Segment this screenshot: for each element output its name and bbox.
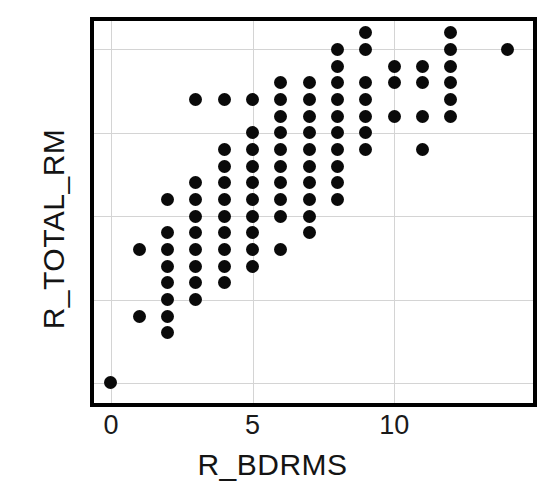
data-point (246, 193, 259, 206)
data-point (359, 126, 372, 139)
y-axis-title: R_TOTAL_RM (37, 79, 71, 379)
data-point (218, 193, 231, 206)
data-point (274, 193, 287, 206)
data-point (246, 160, 259, 173)
data-point (303, 76, 316, 89)
data-point (274, 126, 287, 139)
data-point (303, 176, 316, 189)
data-point (416, 110, 429, 123)
data-point (331, 43, 344, 56)
data-point (388, 60, 401, 73)
gridline-horizontal (94, 49, 533, 50)
data-point (388, 76, 401, 89)
data-point (161, 226, 174, 239)
data-point (218, 160, 231, 173)
data-point (416, 76, 429, 89)
data-point (246, 143, 259, 156)
data-point (303, 110, 316, 123)
data-point (218, 176, 231, 189)
data-point (416, 143, 429, 156)
x-tick-label: 5 (245, 412, 260, 439)
gridline-horizontal (94, 383, 533, 384)
data-point (359, 110, 372, 123)
data-point (274, 210, 287, 223)
data-point (303, 226, 316, 239)
data-point (331, 60, 344, 73)
data-point (189, 276, 202, 289)
data-point (388, 110, 401, 123)
data-point (246, 210, 259, 223)
data-point (218, 243, 231, 256)
data-point (246, 126, 259, 139)
data-point (303, 143, 316, 156)
data-point (161, 243, 174, 256)
data-point (133, 243, 146, 256)
x-tick-label: 10 (379, 412, 409, 439)
data-point (331, 76, 344, 89)
data-point (331, 193, 344, 206)
data-point (218, 93, 231, 106)
data-point (161, 260, 174, 273)
data-point (274, 110, 287, 123)
data-point (444, 93, 457, 106)
data-point (161, 193, 174, 206)
data-point (218, 226, 231, 239)
data-point (359, 76, 372, 89)
plot-frame (90, 17, 537, 407)
data-point (274, 93, 287, 106)
data-point (274, 243, 287, 256)
data-point (444, 110, 457, 123)
data-point (218, 260, 231, 273)
data-point (331, 176, 344, 189)
data-point (189, 176, 202, 189)
data-point (444, 26, 457, 39)
x-axis-title: R_BDRMS (0, 448, 545, 482)
data-point (161, 310, 174, 323)
data-point (189, 226, 202, 239)
data-point (303, 160, 316, 173)
data-point (161, 293, 174, 306)
data-point (161, 326, 174, 339)
data-point (331, 143, 344, 156)
data-point (189, 210, 202, 223)
data-point (218, 276, 231, 289)
plot-area (94, 21, 533, 403)
data-point (246, 176, 259, 189)
data-point (274, 176, 287, 189)
data-point (359, 143, 372, 156)
x-tick-label: 0 (103, 412, 118, 439)
data-point (274, 76, 287, 89)
data-point (359, 93, 372, 106)
data-point (331, 160, 344, 173)
data-point (303, 210, 316, 223)
data-point (331, 110, 344, 123)
data-point (189, 93, 202, 106)
data-point (359, 26, 372, 39)
data-point (274, 143, 287, 156)
data-point (189, 193, 202, 206)
data-point (416, 60, 429, 73)
data-point (161, 276, 174, 289)
data-point (189, 293, 202, 306)
data-point (104, 376, 117, 389)
gridline-vertical (111, 21, 112, 403)
data-point (331, 126, 344, 139)
data-point (501, 43, 514, 56)
data-point (444, 43, 457, 56)
data-point (246, 93, 259, 106)
data-point (303, 93, 316, 106)
scatter-plot-figure: 05101520 0510 R_BDRMS R_TOTAL_RM (0, 0, 545, 492)
gridline-horizontal (94, 300, 533, 301)
data-point (246, 243, 259, 256)
data-point (189, 243, 202, 256)
data-point (331, 93, 344, 106)
data-point (133, 310, 146, 323)
data-point (218, 143, 231, 156)
data-point (303, 193, 316, 206)
data-point (303, 126, 316, 139)
data-point (359, 43, 372, 56)
data-point (444, 60, 457, 73)
data-point (274, 160, 287, 173)
data-point (246, 226, 259, 239)
data-point (444, 76, 457, 89)
